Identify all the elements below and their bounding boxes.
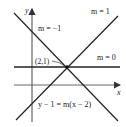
slope-label-neg1: m = −1 [38, 24, 61, 33]
slope-label-0: m = 0 [97, 53, 116, 62]
point-2-1 [65, 65, 69, 69]
y-axis-label: y [24, 6, 29, 15]
point-label: (2,1) [35, 57, 50, 66]
slope-diagram: y x (2,1) m = −1 m = 1 m = 0 y − 1 = m(x… [0, 0, 126, 127]
point-slope-equation: y − 1 = m(x − 2) [38, 100, 91, 109]
x-axis-label: x [116, 88, 121, 97]
slope-label-1: m = 1 [91, 7, 110, 16]
